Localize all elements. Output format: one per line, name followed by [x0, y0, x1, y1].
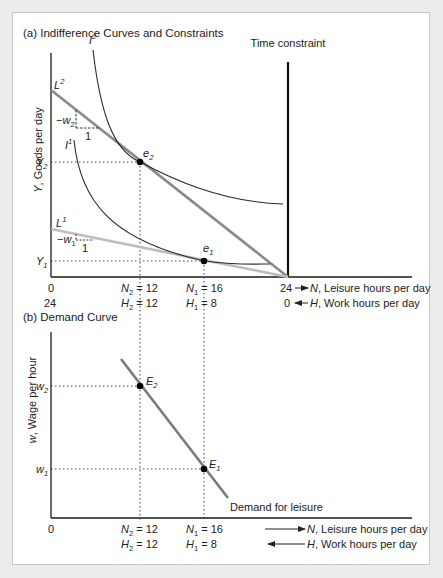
slope-label-w2: −w2 — [56, 114, 75, 129]
tick-w1: w1 — [36, 463, 48, 478]
tick-h1-b: H1 = 8 — [186, 538, 217, 553]
panel-b-title: (b) Demand Curve — [23, 311, 118, 323]
label-E2: E2 — [146, 375, 158, 390]
tick-zero-a: 0 — [48, 282, 54, 294]
point-E1 — [201, 466, 208, 473]
tick-n2-a: N2 = 12 — [121, 282, 158, 297]
panel-b: (b) Demand Curve w, Wage per hour E2 E1 … — [23, 311, 428, 553]
panel-a-title: (a) Indifference Curves and Constraints — [23, 27, 224, 39]
tick-n1-a: N1 = 16 — [186, 282, 223, 297]
tick-h2-a: H2 = 12 — [121, 297, 158, 312]
tick-n2-b: N2 = 12 — [121, 523, 158, 538]
label-i2: I2 — [89, 32, 97, 46]
label-e1: e1 — [203, 242, 213, 257]
tick-zero-hours: 0 — [284, 297, 290, 309]
slope-run-label-w2: 1 — [85, 130, 91, 142]
point-e2 — [137, 159, 144, 166]
point-E2 — [137, 383, 144, 390]
y-axis-label-wage: w, Wage per hour — [26, 356, 38, 443]
tick-h1-a: H1 = 8 — [186, 297, 217, 312]
label-l2: L2 — [54, 77, 65, 91]
slope-label-w1: −w1 — [57, 233, 76, 248]
tick-y1: Y1 — [36, 255, 48, 270]
tick-24-hours: 24 — [44, 297, 56, 309]
point-e1 — [201, 258, 208, 265]
panel-a: (a) Indifference Curves and Constraints … — [23, 27, 431, 520]
time-constraint-label: Time constraint — [251, 37, 326, 49]
label-l1: L1 — [56, 215, 66, 229]
x-axis-label-work-b: H, Work hours per day — [307, 538, 417, 550]
y-axis-label-goods: Y, Goods per day — [32, 107, 44, 193]
tick-24-a: 24 — [280, 282, 292, 294]
demand-curve — [121, 359, 228, 498]
slope-run-label-w1: 1 — [82, 242, 88, 254]
x-axis-label-leisure-a: N, Leisure hours per day — [310, 282, 431, 294]
x-axis-label-leisure-b: N, Leisure hours per day — [307, 523, 428, 535]
x-axis-label-work-a: H, Work hours per day — [310, 297, 420, 309]
indifference-curve-i1 — [74, 140, 270, 264]
label-E1: E1 — [209, 458, 221, 473]
tick-n1-b: N1 = 16 — [186, 523, 223, 538]
indifference-curve-i2 — [93, 50, 283, 204]
demand-label: Demand for leisure — [230, 501, 323, 513]
label-i1: I1 — [65, 137, 72, 151]
labor-leisure-figure: (a) Indifference Curves and Constraints … — [0, 0, 443, 578]
tick-h2-b: H2 = 12 — [121, 538, 158, 553]
tick-zero-b: 0 — [48, 523, 54, 535]
label-e2: e2 — [143, 147, 154, 162]
